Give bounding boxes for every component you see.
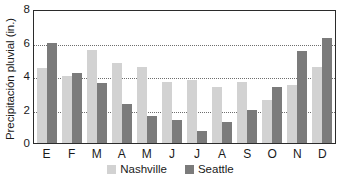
x-axis-tick-labels: EFMAMJJASOND bbox=[33, 146, 336, 162]
bar-group bbox=[60, 11, 85, 143]
x-tick-label: S bbox=[235, 146, 260, 162]
x-tick-label: M bbox=[134, 146, 159, 162]
bar-seattle-s-8 bbox=[247, 110, 257, 143]
legend-entry-seattle: Seattle bbox=[185, 164, 234, 176]
x-tick-label: M bbox=[84, 146, 109, 162]
x-tick-label: A bbox=[210, 146, 235, 162]
legend-entry-nashville: Nashville bbox=[107, 164, 167, 176]
x-tick-label: N bbox=[285, 146, 310, 162]
bar-group bbox=[185, 11, 210, 143]
bar-seattle-a-3 bbox=[122, 104, 132, 143]
legend-label: Seattle bbox=[198, 164, 234, 176]
bar-nashville-s-8 bbox=[237, 82, 247, 143]
bar-group bbox=[135, 11, 160, 143]
bar-seattle-j-6 bbox=[197, 131, 207, 143]
bar-nashville-n-10 bbox=[287, 85, 297, 143]
bar-nashville-m-4 bbox=[137, 67, 147, 143]
bar-seattle-o-9 bbox=[272, 87, 282, 143]
bar-group bbox=[234, 11, 259, 143]
bar-nashville-o-9 bbox=[262, 100, 272, 143]
bar-group bbox=[209, 11, 234, 143]
bar-seattle-e-0 bbox=[47, 43, 57, 144]
bar-seattle-d-11 bbox=[322, 38, 332, 143]
x-tick-label: O bbox=[260, 146, 285, 162]
x-tick-label: J bbox=[184, 146, 209, 162]
y-tick-label: 4 bbox=[17, 71, 30, 83]
bar-nashville-f-1 bbox=[62, 76, 72, 143]
y-tick-label: 8 bbox=[17, 4, 30, 16]
bar-group bbox=[284, 11, 309, 143]
x-tick-label: J bbox=[159, 146, 184, 162]
bar-group bbox=[160, 11, 185, 143]
bar-nashville-a-3 bbox=[112, 63, 122, 143]
seattle-swatch bbox=[185, 165, 194, 174]
bar-group bbox=[259, 11, 284, 143]
bar-seattle-f-1 bbox=[72, 73, 82, 143]
x-tick-label: E bbox=[34, 146, 59, 162]
bar-nashville-d-11 bbox=[312, 67, 322, 143]
bar-seattle-j-5 bbox=[172, 120, 182, 143]
bar-nashville-a-7 bbox=[212, 87, 222, 143]
bar-seattle-m-2 bbox=[97, 83, 107, 143]
bar-group bbox=[35, 11, 60, 143]
bar-groups bbox=[34, 11, 335, 143]
y-axis-tick-labels: 02468 bbox=[17, 0, 30, 182]
bar-nashville-m-2 bbox=[87, 50, 97, 143]
y-tick-label: 0 bbox=[17, 138, 30, 150]
chart-legend: NashvilleSeattle bbox=[0, 164, 341, 176]
nashville-swatch bbox=[107, 165, 116, 174]
legend-label: Nashville bbox=[120, 164, 167, 176]
bar-nashville-j-5 bbox=[162, 82, 172, 143]
bar-nashville-j-6 bbox=[187, 80, 197, 143]
x-tick-label: D bbox=[310, 146, 335, 162]
bar-group bbox=[85, 11, 110, 143]
precipitation-bar-chart: Precipitación pluvial (in.) 02468 EFMAMJ… bbox=[0, 0, 341, 182]
bar-seattle-m-4 bbox=[147, 116, 157, 143]
bar-group bbox=[309, 11, 334, 143]
plot-area bbox=[33, 10, 336, 144]
bar-group bbox=[110, 11, 135, 143]
bar-seattle-a-7 bbox=[222, 122, 232, 143]
y-tick-label: 2 bbox=[17, 105, 30, 117]
bar-seattle-n-10 bbox=[297, 51, 307, 143]
x-tick-label: F bbox=[59, 146, 84, 162]
x-tick-label: A bbox=[109, 146, 134, 162]
y-tick-label: 6 bbox=[17, 38, 30, 50]
bar-nashville-e-0 bbox=[37, 68, 47, 143]
y-axis-label: Precipitación pluvial (in.) bbox=[2, 3, 18, 155]
